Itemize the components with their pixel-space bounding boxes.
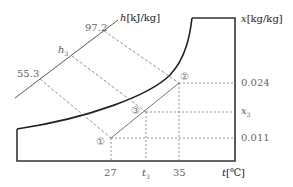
h-tick-97: 97.2: [85, 23, 107, 33]
t-tick-t3: t3: [142, 168, 150, 180]
x-tick-011: 0.011: [241, 133, 270, 143]
h-axis-label: h[kJ/kg]: [120, 13, 160, 23]
state-point-3-marker: ③: [131, 106, 140, 116]
enthalpy-line-55: [40, 79, 111, 138]
state-point-2-marker: ②: [180, 72, 189, 82]
t-tick-35: 35: [173, 168, 186, 178]
psychrometric-diagram: [0, 0, 293, 187]
enthalpy-line-97: [104, 31, 179, 83]
t-axis-label: t[℃]: [222, 168, 245, 178]
chart-frame: [17, 18, 235, 161]
t-tick-27: 27: [104, 168, 117, 178]
h-tick-h3: h3: [58, 45, 68, 57]
x-tick-024: 0.024: [241, 78, 270, 88]
state-point-1-marker: ①: [96, 137, 105, 147]
saturation-curve: [17, 18, 192, 129]
x-axis-label: x[kg/kg]: [241, 14, 283, 24]
enthalpy-line-h3: [72, 56, 146, 112]
x-tick-x3: x3: [241, 106, 250, 118]
h-tick-55: 55.3: [17, 69, 39, 79]
